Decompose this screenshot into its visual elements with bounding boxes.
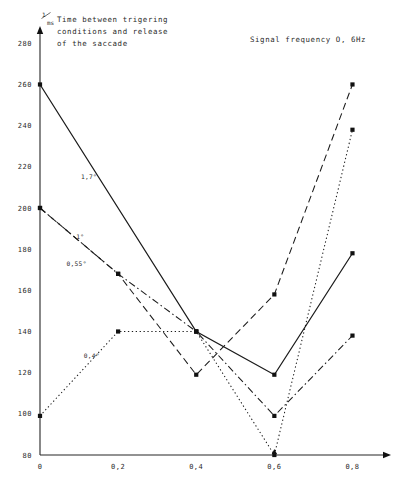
y-axis-arrow bbox=[37, 26, 43, 34]
data-point-marker bbox=[194, 329, 198, 333]
y-tick-label: 180 bbox=[18, 246, 32, 254]
y-tick-label: 80 bbox=[23, 452, 32, 460]
data-point-marker bbox=[38, 414, 42, 418]
series-label: 0,55° bbox=[67, 260, 87, 267]
data-point-marker bbox=[38, 206, 42, 210]
data-point-marker bbox=[272, 373, 276, 377]
y-tick-label: 120 bbox=[18, 369, 32, 377]
y-tick-label: 100 bbox=[18, 410, 32, 418]
y-tick-label: 200 bbox=[18, 205, 32, 213]
y-tick-label: 260 bbox=[18, 81, 32, 89]
series-line bbox=[40, 208, 352, 416]
series-label: 1° bbox=[76, 233, 84, 240]
x-tick-label: 0,6 bbox=[267, 463, 281, 471]
x-tick-label: 0,4 bbox=[189, 463, 203, 471]
y-tick-label: 220 bbox=[18, 163, 32, 171]
chart-title-line: conditions and release bbox=[57, 27, 168, 36]
chart-figure: 8010012014016018020022024026028000,20,40… bbox=[0, 0, 400, 485]
series-label: 1,7° bbox=[81, 173, 97, 180]
y-tick-label: 280 bbox=[18, 40, 32, 48]
x-tick-label: 0 bbox=[38, 463, 43, 471]
data-point-marker bbox=[272, 453, 276, 457]
x-tick-label: 0,8 bbox=[345, 463, 359, 471]
chart-annotation: Signal frequency O, 6Hz bbox=[250, 35, 366, 44]
data-point-marker bbox=[194, 373, 198, 377]
data-point-marker bbox=[350, 334, 354, 338]
series-label: 0,4° bbox=[84, 352, 100, 359]
series-dashdot: 0,55° bbox=[38, 206, 355, 418]
chart-title-line: Time between trigering bbox=[57, 15, 168, 24]
data-point-marker bbox=[38, 82, 42, 86]
y-tick-label: 160 bbox=[18, 287, 32, 295]
data-point-marker bbox=[116, 329, 120, 333]
x-tick-label: 0,2 bbox=[111, 463, 125, 471]
y-tick-label: 140 bbox=[18, 328, 32, 336]
y-axis-unit-denominator: ms bbox=[47, 19, 55, 26]
chart-title-line: of the saccade bbox=[57, 39, 128, 48]
data-point-marker bbox=[350, 82, 354, 86]
data-point-marker bbox=[350, 251, 354, 255]
line-chart: 8010012014016018020022024026028000,20,40… bbox=[0, 0, 400, 485]
data-point-marker bbox=[272, 292, 276, 296]
x-axis-arrow bbox=[383, 452, 391, 458]
data-point-marker bbox=[350, 128, 354, 132]
data-point-marker bbox=[116, 272, 120, 276]
data-point-marker bbox=[272, 414, 276, 418]
y-tick-label: 240 bbox=[18, 122, 32, 130]
